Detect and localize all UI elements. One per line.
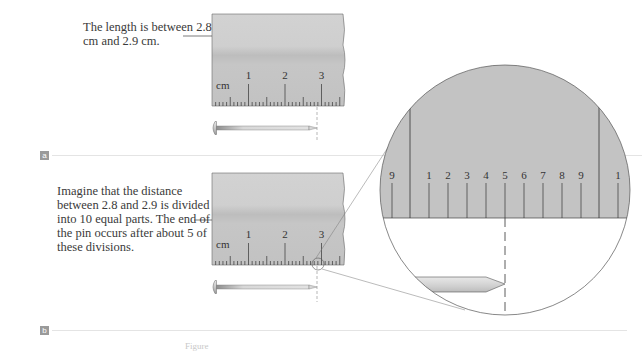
magnified-division-label: 8: [559, 169, 565, 181]
panel-b-ruler: [212, 173, 345, 265]
magnified-division-label: 9: [389, 169, 395, 181]
magnified-division-label: 9: [578, 169, 584, 181]
magnified-division-label: 5: [502, 169, 508, 181]
magnified-division-label: 1: [615, 169, 621, 181]
panel-b-tick-label-1: 1: [246, 228, 252, 240]
magnified-division-label: 4: [483, 169, 489, 181]
figure-caption-fragment: Figure: [185, 341, 209, 351]
panel-b-unit-label: cm: [216, 238, 230, 250]
panel-b-tick-label-2: 2: [282, 228, 288, 240]
magnified-division-label: 6: [521, 169, 527, 181]
panel-a-tick-label-3: 3: [319, 69, 325, 81]
panel-a-tick-label-2: 2: [282, 69, 288, 81]
magnified-view: [380, 60, 640, 328]
magnified-division-label: 3: [464, 169, 470, 181]
panel-b-tick-label-3: 3: [319, 228, 325, 240]
panel-b-pin: [213, 281, 317, 294]
magnified-division-label: 1: [426, 169, 432, 181]
panel-a-tick-label-1: 1: [246, 69, 252, 81]
panel-a-ruler: [212, 14, 345, 106]
panel-a-unit-label: cm: [216, 79, 230, 91]
magnified-division-label: 7: [540, 169, 546, 181]
panel-a-pin: [213, 122, 317, 135]
magnified-division-label: 2: [445, 169, 451, 181]
